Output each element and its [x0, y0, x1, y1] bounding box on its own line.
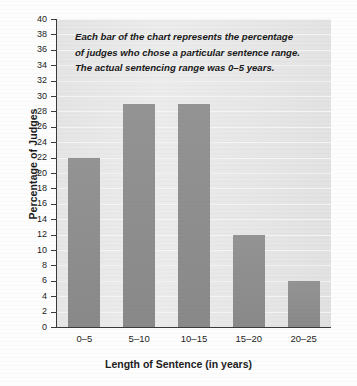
y-axis-line: [56, 19, 57, 328]
y-axis-tick: [51, 173, 56, 174]
y-axis-tick: [51, 111, 56, 112]
y-axis-tick: [51, 188, 56, 189]
bar: [178, 104, 210, 327]
y-axis-tick-label: 40: [19, 15, 47, 24]
chart-annotation-note: Each bar of the chart represents the per…: [75, 29, 315, 76]
y-axis-tick: [51, 235, 56, 236]
y-axis-tick-label: 0: [19, 323, 47, 332]
x-axis-tick-label: 15–20: [219, 333, 279, 344]
y-axis-tick-label: 38: [19, 30, 47, 39]
y-axis-tick: [51, 265, 56, 266]
y-axis-tick: [51, 50, 56, 51]
bar: [288, 281, 320, 327]
y-axis-tick-label: 2: [19, 307, 47, 316]
y-axis-tick: [51, 281, 56, 282]
y-axis-tick-label: 4: [19, 292, 47, 301]
y-axis-tick-label: 36: [19, 45, 47, 54]
bar-shading: [123, 104, 155, 327]
gridline: [57, 96, 331, 97]
bar: [123, 104, 155, 327]
y-axis-tick: [51, 158, 56, 159]
y-axis-tick: [51, 327, 56, 328]
y-axis-tick: [51, 65, 56, 66]
y-axis-tick: [51, 312, 56, 313]
gridline: [57, 81, 331, 82]
x-axis-title: Length of Sentence (in years): [0, 358, 357, 370]
x-axis-tick-label: 20–25: [274, 333, 334, 344]
y-axis-tick: [51, 219, 56, 220]
x-axis-line: [56, 327, 331, 328]
y-axis-tick: [51, 81, 56, 82]
annotation-line: of judges who chose a particular sentenc…: [75, 45, 315, 61]
annotation-line: Each bar of the chart represents the per…: [75, 29, 315, 45]
y-axis-tick: [51, 142, 56, 143]
y-axis-tick: [51, 19, 56, 20]
y-axis-tick: [51, 96, 56, 97]
y-axis-tick: [51, 34, 56, 35]
x-axis-tick-label: 10–15: [164, 333, 224, 344]
y-axis-tick: [51, 127, 56, 128]
bar-shading: [288, 281, 320, 327]
y-axis-tick-label: 6: [19, 276, 47, 285]
bar: [68, 158, 100, 327]
bar: [233, 235, 265, 327]
y-axis-tick: [51, 250, 56, 251]
annotation-line: The actual sentencing range was 0–5 year…: [75, 60, 315, 76]
x-axis-tick-label: 0–5: [54, 333, 114, 344]
gridline: [57, 19, 331, 20]
bar-shading: [178, 104, 210, 327]
bar-shading: [68, 158, 100, 327]
x-axis-tick-label: 5–10: [109, 333, 169, 344]
y-axis-tick-label: 8: [19, 261, 47, 270]
y-axis-title: Percentage of Judges: [27, 69, 39, 259]
y-axis-tick: [51, 296, 56, 297]
y-axis-tick: [51, 204, 56, 205]
bar-shading: [233, 235, 265, 327]
bar-chart-figure: 0246810121416182022242628303234363840 Pe…: [0, 0, 357, 386]
